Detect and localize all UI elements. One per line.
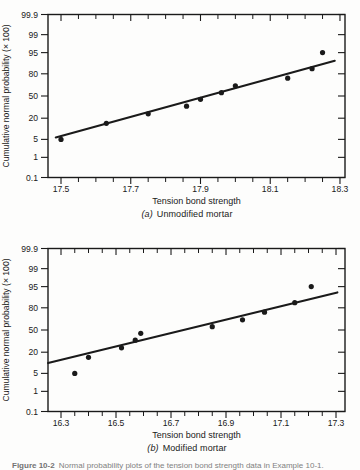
data-point <box>233 83 238 88</box>
x-axis-title: Tension bond strength <box>152 196 241 206</box>
cropped-caption-text: Normal probability plots of the tension … <box>59 461 324 470</box>
probability-plot-a: 17.517.717.918.118.399.99995805020510.1T… <box>0 0 360 232</box>
data-point <box>210 324 215 329</box>
data-point <box>320 50 325 55</box>
x-tick-label: 17.3 <box>328 418 345 428</box>
data-point <box>240 317 245 322</box>
y-tick-label: 20 <box>28 113 38 123</box>
y-tick-label: 99 <box>28 264 38 274</box>
data-point <box>285 76 290 81</box>
x-axis-title: Tension bond strength <box>152 430 241 440</box>
data-point <box>133 338 138 343</box>
data-point <box>184 104 189 109</box>
y-tick-label: 80 <box>28 69 38 79</box>
data-point <box>309 284 314 289</box>
x-tick-label: 17.9 <box>192 184 209 194</box>
data-point <box>119 345 124 350</box>
caption-b: (b)Modified mortar <box>7 443 360 453</box>
data-point <box>292 300 297 305</box>
y-tick-label: 5 <box>33 134 38 144</box>
y-tick-label: 0.1 <box>26 173 38 183</box>
data-point <box>309 66 314 71</box>
x-tick-label: 16.7 <box>163 418 180 428</box>
cropped-caption: Figure 10-2Normal probability plots of t… <box>12 461 358 470</box>
caption-a: (a)Unmodified mortar <box>7 209 360 219</box>
x-tick-label: 18.1 <box>262 184 279 194</box>
data-point <box>262 310 267 315</box>
x-tick-label: 16.3 <box>53 418 70 428</box>
data-point <box>86 355 91 360</box>
caption-a-text: Unmodified mortar <box>157 209 233 219</box>
y-tick-label: 95 <box>28 48 38 58</box>
data-point <box>219 90 224 95</box>
data-point <box>198 97 203 102</box>
y-tick-label: 1 <box>33 152 38 162</box>
y-tick-label: 99.9 <box>21 244 38 254</box>
fit-line <box>56 61 335 138</box>
y-tick-label: 5 <box>33 368 38 378</box>
y-tick-label: 80 <box>28 303 38 313</box>
x-tick-label: 17.5 <box>53 184 70 194</box>
y-axis-title: Cumulative normal probability (× 100) <box>1 258 11 401</box>
x-tick-label: 16.5 <box>108 418 125 428</box>
data-point <box>58 137 63 142</box>
y-tick-label: 50 <box>28 325 38 335</box>
y-tick-label: 1 <box>33 386 38 396</box>
probability-plot-b: 16.316.516.716.917.117.399.9999580502051… <box>0 234 360 466</box>
x-tick-label: 17.7 <box>122 184 139 194</box>
data-point <box>104 121 109 126</box>
y-tick-label: 95 <box>28 282 38 292</box>
plot-border <box>48 15 345 178</box>
plot-border <box>48 249 345 412</box>
y-tick-label: 99 <box>28 30 38 40</box>
data-point <box>146 111 151 116</box>
data-point <box>138 331 143 336</box>
x-tick-label: 17.1 <box>273 418 290 428</box>
x-tick-label: 18.3 <box>332 184 349 194</box>
y-tick-label: 20 <box>28 347 38 357</box>
chart-modified-mortar: 16.316.516.716.917.117.399.9999580502051… <box>0 234 360 466</box>
cropped-caption-number: Figure 10-2 <box>12 461 55 470</box>
x-tick-label: 16.9 <box>218 418 235 428</box>
caption-a-label: (a) <box>141 209 152 219</box>
y-tick-label: 99.9 <box>21 10 38 20</box>
caption-b-label: (b) <box>147 443 158 453</box>
y-tick-label: 0.1 <box>26 407 38 417</box>
y-axis-title: Cumulative normal probability (× 100) <box>1 24 11 167</box>
chart-unmodified-mortar: 17.517.717.918.118.399.99995805020510.1T… <box>0 0 360 232</box>
caption-b-text: Modified mortar <box>163 443 227 453</box>
data-point <box>72 371 77 376</box>
y-tick-label: 50 <box>28 91 38 101</box>
